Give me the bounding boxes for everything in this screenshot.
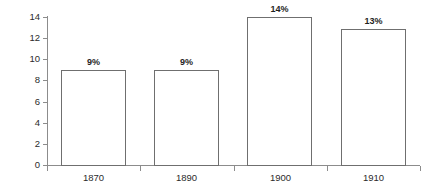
bar-value-label: 14% [247, 4, 312, 15]
y-axis-tick: 4 [0, 123, 47, 124]
y-axis-tick: 12 [0, 38, 47, 39]
y-axis-tick-mark [43, 59, 47, 60]
y-axis-title: % GNP [0, 0, 20, 191]
y-axis-tick-mark [43, 17, 47, 18]
bar-value-label: 9% [61, 57, 126, 68]
y-axis-tick-mark [43, 80, 47, 81]
y-axis-line [47, 16, 48, 166]
bar [154, 70, 219, 166]
y-axis-tick-label: 6 [35, 96, 40, 107]
y-axis-tick: 0 [0, 165, 47, 166]
y-axis-tick-mark [43, 102, 47, 103]
y-axis-tick-label: 14 [29, 11, 40, 22]
y-axis-tick-label: 8 [35, 74, 40, 85]
y-axis-tick-mark [43, 144, 47, 145]
y-axis-tick-mark [43, 123, 47, 124]
bar-value-label: 13% [341, 16, 406, 27]
y-axis-tick-label: 2 [35, 138, 40, 149]
bar [341, 29, 406, 166]
y-axis-tick: 14 [0, 17, 47, 18]
x-axis-tick-label: 1890 [140, 172, 233, 184]
y-axis-tick: 2 [0, 144, 47, 145]
x-axis-tick-mark [140, 166, 141, 171]
y-axis-tick: 6 [0, 102, 47, 103]
y-axis-tick-label: 12 [29, 32, 40, 43]
y-axis-tick-label: 4 [35, 117, 40, 128]
bar-value-label: 9% [154, 57, 219, 68]
x-axis-tick-mark [234, 166, 235, 171]
x-axis-tick-mark [47, 166, 48, 171]
bar-chart: % GNP 02468101214 1870189019001910 9%9%1… [0, 0, 435, 191]
x-axis-tick-mark [327, 166, 328, 171]
y-axis-tick-label: 0 [35, 159, 40, 170]
bar [247, 17, 312, 166]
x-axis-tick-mark [420, 166, 421, 171]
y-axis-tick-label: 10 [29, 53, 40, 64]
x-axis-tick-label: 1870 [47, 172, 140, 184]
x-axis-tick-label: 1910 [327, 172, 420, 184]
y-axis-tick-mark [43, 38, 47, 39]
x-axis-tick-label: 1900 [234, 172, 327, 184]
y-axis-tick: 10 [0, 59, 47, 60]
y-axis-tick: 8 [0, 80, 47, 81]
bar [61, 70, 126, 166]
